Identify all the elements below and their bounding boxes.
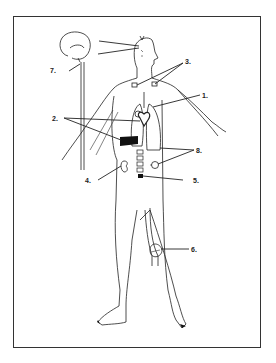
label-7: 7. <box>50 67 56 74</box>
label-4: 4. <box>85 177 91 184</box>
legs-outline <box>97 200 186 328</box>
thyroid-glands <box>132 82 157 87</box>
intestines <box>137 150 143 178</box>
label-6: 6. <box>191 246 197 253</box>
stomach <box>120 136 138 146</box>
label-8: 8. <box>196 147 202 154</box>
kidney-left-icon <box>121 161 127 172</box>
label-3: 3. <box>185 58 191 65</box>
spinal-cord <box>81 62 84 170</box>
label-1: 1. <box>202 92 208 99</box>
kidney-right-icon <box>150 162 159 169</box>
body-diagram: 7. 3. 1. 2. 8. 4. 5. 6. <box>0 0 276 363</box>
label-2: 2. <box>52 115 58 122</box>
label-5: 5. <box>193 177 199 184</box>
brain-icon <box>60 32 90 62</box>
head-outline <box>134 36 158 78</box>
heart-icon <box>138 112 149 126</box>
